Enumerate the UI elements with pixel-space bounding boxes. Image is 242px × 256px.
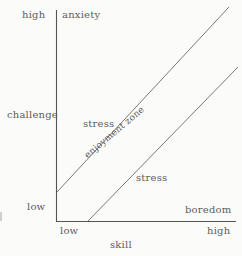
zone-label-anxiety: anxiety xyxy=(62,10,100,20)
y-axis-title: challenge xyxy=(7,110,58,120)
y-axis-high-label: high xyxy=(22,10,45,20)
zone-label-boredom: boredom xyxy=(185,205,231,215)
x-axis-low-label: low xyxy=(60,226,78,236)
flow-channel-diagram: high low challenge low high skill anxiet… xyxy=(0,0,242,256)
y-axis-low-label: low xyxy=(27,202,45,212)
x-axis-high-label: high xyxy=(207,226,230,236)
zone-label-stress-lower: stress xyxy=(136,173,167,183)
zone-label-stress-upper: stress xyxy=(83,119,114,129)
x-axis-title: skill xyxy=(110,240,132,250)
scan-edge-artifact xyxy=(0,212,2,221)
lower-boundary-line xyxy=(88,67,238,221)
